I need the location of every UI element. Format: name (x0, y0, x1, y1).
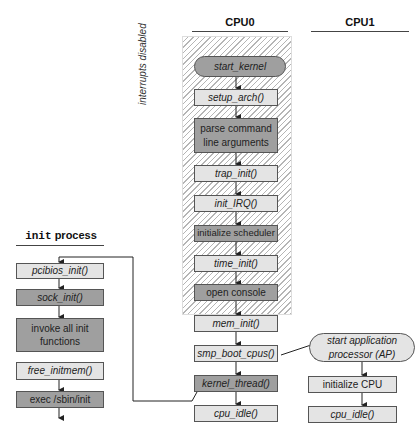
init-step-sock-init: sock_init() (16, 289, 104, 306)
cpu0-step-init-irq: init_IRQ() (194, 195, 278, 212)
cpu1-step-initialize-cpu: initialize CPU (308, 376, 397, 393)
init-step-pcibios-init: pcibios_init() (16, 263, 104, 279)
cpu0-step-kernel-thread: kernel_thread() (194, 375, 278, 392)
cpu0-step-start-kernel: start_kernel (194, 56, 286, 77)
cpu0-step-setup-arch: setup_arch() (194, 89, 278, 106)
init-step-exec-sbin-init: exec /sbin/init (16, 391, 104, 408)
cpu0-step-parse-command-line: parse command line arguments (194, 118, 278, 153)
cpu0-step-smp-boot-cpus: smp_boot_cpus() (194, 345, 278, 362)
cpu0-step-cpu-idle: cpu_idle() (194, 405, 278, 422)
cpu1-step-cpu-idle: cpu_idle() (308, 406, 397, 423)
cpu0-step-time-init: time_init() (194, 255, 278, 272)
cpu0-step-open-console: open console (194, 284, 278, 301)
init-step-free-initmem: free_initmem() (16, 362, 104, 380)
cpu1-step-start-ap: start application processor (AP) (309, 333, 415, 362)
cpu0-step-mem-init: mem_init() (194, 315, 278, 332)
cpu0-step-initialize-scheduler: initialize scheduler (194, 225, 278, 242)
cpu0-step-trap-init: trap_init() (194, 165, 278, 182)
init-step-invoke-init-functions: invoke all init functions (16, 318, 104, 352)
